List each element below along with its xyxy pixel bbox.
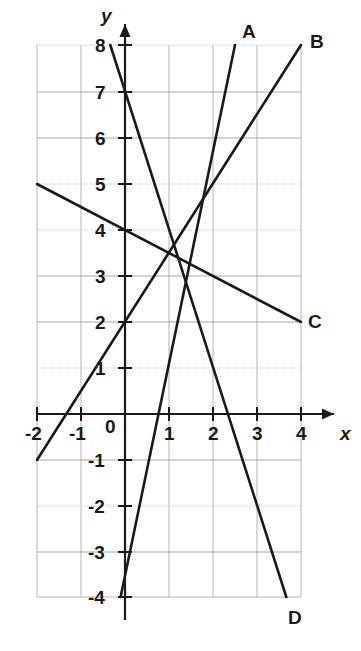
x-tick-neg1: -1 [69, 424, 86, 443]
coordinate-plane [0, 0, 361, 651]
y-tick-3: 3 [95, 267, 106, 286]
x-tick-2: 2 [208, 424, 219, 443]
x-tick-neg2: -2 [25, 424, 42, 443]
y-tick-neg4: -4 [88, 588, 105, 607]
y-tick-8: 8 [95, 36, 106, 55]
x-tick-3: 3 [252, 424, 263, 443]
y-tick-6: 6 [95, 129, 106, 148]
line-label-b: B [310, 32, 324, 51]
y-tick-1: 1 [95, 359, 106, 378]
y-tick-7: 7 [95, 83, 106, 102]
y-tick-2: 2 [95, 313, 106, 332]
line-label-c: C [308, 312, 322, 331]
y-tick-neg3: -3 [88, 543, 105, 562]
x-tick-1: 1 [164, 424, 175, 443]
grid-lines [37, 45, 301, 597]
y-tick-neg2: -2 [88, 497, 105, 516]
line-label-a: A [242, 22, 256, 41]
y-tick-4: 4 [95, 221, 106, 240]
x-tick-0: 0 [105, 417, 116, 436]
x-axis-label: x [340, 424, 351, 443]
y-tick-5: 5 [95, 175, 106, 194]
y-axis-label: y [101, 6, 112, 25]
line-label-d: D [288, 608, 302, 627]
y-tick-neg1: -1 [88, 451, 105, 470]
x-tick-4: 4 [296, 424, 307, 443]
